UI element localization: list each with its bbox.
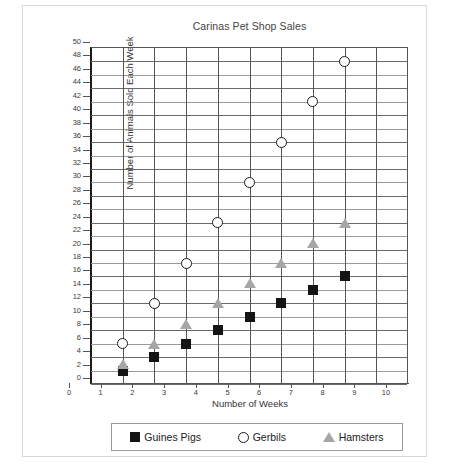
data-point-circle: [149, 298, 160, 309]
y-axis-tick-mark: [83, 82, 90, 83]
y-axis-tick-label: 34: [57, 146, 81, 154]
y-axis-tick-label: 24: [57, 213, 81, 221]
data-point-circle: [244, 177, 255, 188]
y-axis-tick-mark: [83, 324, 90, 325]
y-axis-tick-label: 28: [57, 186, 81, 194]
x-axis-tick-mark: [101, 383, 102, 388]
y-axis-tick-label: 46: [57, 65, 81, 73]
data-point-square: [308, 285, 318, 295]
x-axis-tick-label: 10: [376, 388, 396, 397]
x-axis-tick-mark: [323, 383, 324, 388]
data-point-circle: [117, 338, 128, 349]
data-point-triangle: [244, 278, 256, 288]
y-axis-tick-mark: [83, 109, 90, 110]
data-point-circle: [181, 258, 192, 269]
x-axis-tick-label: 2: [122, 388, 142, 397]
chart-title: Carinas Pet Shop Sales: [23, 20, 453, 32]
y-axis-tick-label: 48: [57, 51, 81, 59]
x-axis-label: Number of Weeks: [91, 398, 409, 409]
y-axis-tick-label: 44: [57, 78, 81, 86]
x-axis-tick-mark: [132, 383, 133, 388]
y-axis-tick-label: 36: [57, 132, 81, 140]
plot-area: [91, 47, 408, 383]
y-axis-tick-mark: [83, 378, 90, 379]
x-axis-tick-mark: [196, 383, 197, 388]
y-axis-tick-mark: [83, 55, 90, 56]
y-axis-tick-label: 30: [57, 172, 81, 180]
data-point-square: [213, 325, 223, 335]
y-axis-tick-label: 2: [57, 361, 81, 369]
gridline-vertical: [186, 48, 187, 383]
y-axis-tick-label: 8: [57, 320, 81, 328]
y-axis-tick-label: 12: [57, 293, 81, 301]
x-axis-tick-mark: [228, 383, 229, 388]
y-axis-tick-mark: [83, 297, 90, 298]
y-axis-tick-mark: [83, 230, 90, 231]
y-axis-tick-label: 18: [57, 253, 81, 261]
legend-item-hamsters[interactable]: Hamsters: [323, 431, 384, 443]
y-axis-tick-label: 42: [57, 92, 81, 100]
gridline-vertical: [345, 48, 346, 383]
y-axis-tick-mark: [83, 96, 90, 97]
x-axis-tick-label: 6: [249, 388, 269, 397]
data-point-triangle: [180, 319, 192, 329]
x-axis-tick-mark: [164, 383, 165, 388]
x-axis-tick-mark: [354, 383, 355, 388]
x-axis-tick-mark: [291, 383, 292, 388]
y-axis-tick-mark: [83, 351, 90, 352]
y-axis-tick-label: 4: [57, 347, 81, 355]
chart-frame: Carinas Pet Shop Sales Number of Animals…: [22, 5, 427, 457]
y-axis-tick-mark: [83, 69, 90, 70]
legend-label-guinea-pigs: Guines Pigs: [144, 431, 201, 443]
y-axis-tick-label: 10: [57, 307, 81, 315]
data-point-circle: [276, 137, 287, 148]
x-axis-tick-mark: [386, 383, 387, 388]
x-axis-tick-mark: [69, 383, 70, 388]
y-axis-tick-mark: [83, 203, 90, 204]
legend-item-guinea-pigs[interactable]: Guines Pigs: [130, 431, 201, 443]
y-axis-tick-mark: [83, 42, 90, 43]
y-axis-tick-mark: [83, 244, 90, 245]
triangle-marker-icon: [323, 432, 335, 442]
y-axis-tick-mark: [83, 311, 90, 312]
x-axis-tick-label: 0: [59, 388, 79, 397]
y-axis-tick-mark: [83, 338, 90, 339]
data-point-triangle: [212, 298, 224, 308]
gridline-vertical: [123, 48, 124, 383]
chart-legend: Guines Pigs Gerbils Hamsters: [111, 423, 403, 451]
data-point-circle: [212, 217, 223, 228]
data-point-circle: [339, 56, 350, 67]
y-axis-tick-mark: [83, 365, 90, 366]
x-axis-tick-label: 3: [154, 388, 174, 397]
legend-label-gerbils: Gerbils: [253, 431, 286, 443]
data-point-triangle: [117, 359, 129, 369]
data-point-square: [245, 312, 255, 322]
data-point-square: [149, 352, 159, 362]
y-axis-tick-label: 20: [57, 240, 81, 248]
x-axis-tick-label: 8: [313, 388, 333, 397]
data-point-triangle: [339, 218, 351, 228]
x-axis-tick-mark: [259, 383, 260, 388]
x-axis-tick-label: 4: [186, 388, 206, 397]
gridline-vertical: [281, 48, 282, 383]
data-point-square: [276, 298, 286, 308]
y-axis-tick-label: 16: [57, 266, 81, 274]
data-point-square: [181, 339, 191, 349]
y-axis-tick-label: 38: [57, 119, 81, 127]
y-axis-tick-label: 40: [57, 105, 81, 113]
y-axis-tick-label: 26: [57, 199, 81, 207]
data-point-triangle: [307, 238, 319, 248]
gridline-vertical: [376, 48, 377, 383]
data-point-triangle: [148, 339, 160, 349]
x-axis-tick-label: 7: [281, 388, 301, 397]
legend-item-gerbils[interactable]: Gerbils: [238, 431, 286, 443]
y-axis-tick-mark: [83, 270, 90, 271]
circle-marker-icon: [238, 432, 249, 443]
y-axis-tick-mark: [83, 257, 90, 258]
x-axis-tick-label: 9: [344, 388, 364, 397]
y-axis-tick-label: 32: [57, 159, 81, 167]
x-axis-tick-label: 5: [218, 388, 238, 397]
y-axis-tick-mark: [83, 150, 90, 151]
y-axis-tick-mark: [83, 217, 90, 218]
y-axis-tick-mark: [83, 136, 90, 137]
